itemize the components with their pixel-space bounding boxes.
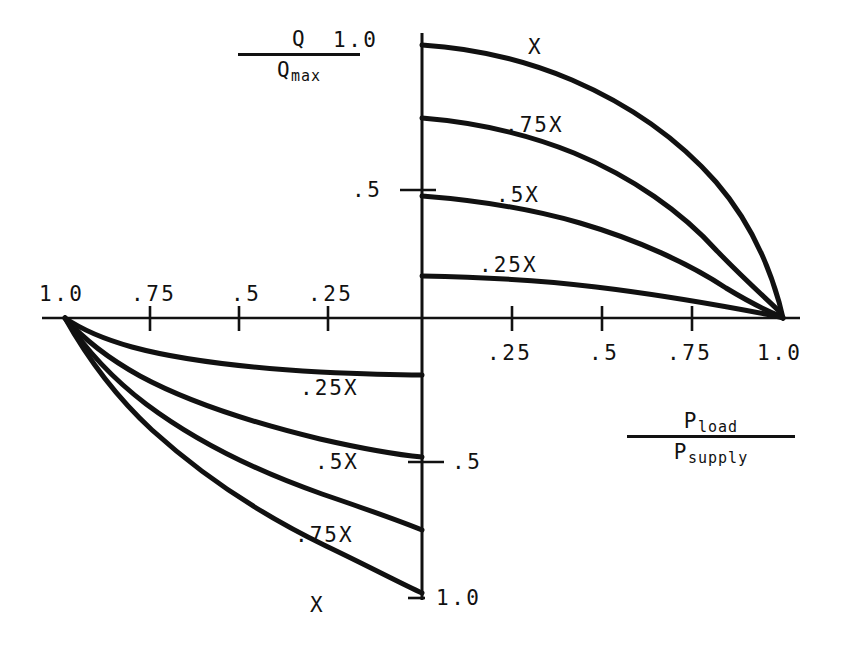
curve-label-lower-left-05x: .5X — [315, 452, 359, 473]
y-tick-label-upper-05: .5 — [352, 180, 382, 201]
x-tick-label-left-1: 1.0 — [39, 284, 84, 305]
y-tick-label-lower-05: .5 — [452, 452, 482, 473]
x-axis-title-denominator-base: P — [674, 440, 688, 464]
x-tick-label-left-05: .5 — [231, 284, 261, 305]
chart-figure: Q Qmax Pload Psupply 1.0 .5 .5 1.0 1.0 .… — [0, 0, 850, 662]
curve-lower-left-05x — [65, 318, 422, 457]
x-axis-title-numerator: Pload — [627, 410, 795, 432]
curve-label-upper-right-025x: .25X — [479, 255, 538, 276]
x-tick-label-right-05: .5 — [589, 343, 619, 364]
curve-label-lower-left-025x: .25X — [300, 378, 359, 399]
y-axis-title-denominator-subscript: max — [291, 67, 321, 85]
x-tick-label-right-075: .75 — [667, 343, 712, 364]
x-axis-title: Pload Psupply — [627, 410, 795, 463]
curve-upper-right-05x — [422, 196, 783, 318]
x-axis-title-denominator-subscript: supply — [688, 449, 748, 467]
x-tick-label-right-025: .25 — [487, 343, 532, 364]
curve-label-upper-right-x: X — [528, 37, 543, 58]
curve-label-lower-left-075x: .75X — [295, 525, 354, 546]
curve-label-lower-left-x: X — [310, 595, 325, 616]
x-axis-title-denominator: Psupply — [627, 441, 795, 463]
curve-lower-left-025x — [65, 318, 422, 375]
y-axis-title-denominator-base: Q — [277, 58, 291, 82]
x-axis-title-numerator-base: P — [684, 409, 698, 433]
x-tick-label-left-025: .25 — [308, 284, 353, 305]
x-axis-title-numerator-subscript: load — [698, 418, 738, 436]
y-axis-title-denominator: Qmax — [238, 59, 360, 81]
y-tick-label-bottom-1: 1.0 — [436, 588, 481, 609]
chart-canvas — [0, 0, 850, 662]
curve-label-upper-right-05x: .5X — [496, 185, 540, 206]
curve-lower-left-x — [65, 318, 422, 593]
x-tick-label-right-1: 1.0 — [757, 343, 802, 364]
x-tick-label-left-075: .75 — [131, 284, 176, 305]
y-axis-title-fraction-bar — [238, 53, 360, 56]
curve-label-upper-right-075x: .75X — [505, 115, 564, 136]
y-tick-label-top-1: 1.0 — [333, 30, 378, 51]
